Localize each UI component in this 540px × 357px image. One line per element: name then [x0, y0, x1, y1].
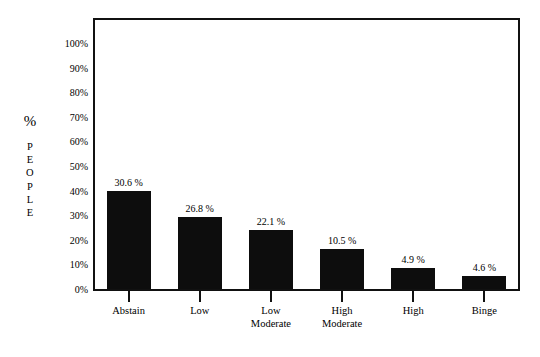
bar-group[interactable]: 10.5 % [320, 18, 364, 289]
y-axis-tick-label: 10% [70, 259, 88, 270]
x-axis-tick [199, 291, 201, 302]
x-axis-tick [128, 291, 130, 302]
y-axis-tick-label: 30% [70, 210, 88, 221]
x-axis-tick [412, 291, 414, 302]
y-axis-tick-label: 70% [70, 111, 88, 122]
y-axis-letter-6: E [8, 206, 52, 219]
x-axis-tick [483, 291, 485, 302]
y-axis-tick-label: 80% [70, 87, 88, 98]
bar-value-label: 4.6 % [473, 262, 496, 273]
bar[interactable] [249, 230, 293, 289]
x-axis-category-label: Binge [472, 305, 497, 318]
y-axis-tick-label: 90% [70, 62, 88, 73]
bar-value-label: 4.9 % [402, 254, 425, 265]
y-axis-tick-labels: 0%10%20%30%40%50%60%70%80%90%100% [52, 18, 90, 291]
bar[interactable] [107, 191, 151, 289]
y-axis-letter-1: P [8, 140, 52, 153]
bar-chart-figure: % P E O P L E 0%10%20%30%40%50%60%70%80%… [0, 0, 540, 357]
y-axis-stacked-word: P E O P L E [8, 140, 52, 219]
y-axis-letter-3: O [8, 166, 52, 179]
bar-value-label: 10.5 % [328, 235, 356, 246]
y-axis-tick-label: 100% [65, 38, 88, 49]
bar-group[interactable]: 26.8 % [178, 18, 222, 289]
x-axis-category-label: High [403, 305, 424, 318]
bar-group[interactable]: 4.9 % [391, 18, 435, 289]
x-axis-category-label: Low [190, 305, 209, 318]
bar-value-label: 22.1 % [257, 216, 285, 227]
bar-group[interactable]: 30.6 % [107, 18, 151, 289]
bars-layer: 30.6 %26.8 %22.1 %10.5 %4.9 %4.6 % [93, 18, 520, 291]
x-axis-category-label: LowModerate [251, 305, 291, 330]
x-axis-category-label: HighModerate [322, 305, 362, 330]
x-axis-category-labels: AbstainLowLowModerateHighModerateHighBin… [93, 305, 520, 345]
bar-value-label: 30.6 % [114, 177, 142, 188]
y-axis-tick-label: 60% [70, 136, 88, 147]
bar[interactable] [320, 249, 364, 289]
bar-group[interactable]: 22.1 % [249, 18, 293, 289]
x-axis-tick [270, 291, 272, 302]
bar[interactable] [462, 276, 506, 289]
y-axis-letter-5: L [8, 193, 52, 206]
bar-value-label: 26.8 % [186, 203, 214, 214]
x-axis-category-label: Abstain [112, 305, 145, 318]
x-axis-tick [341, 291, 343, 302]
y-axis-letter-2: E [8, 153, 52, 166]
y-axis-title: % P E O P L E [8, 114, 52, 219]
y-axis-tick-label: 20% [70, 234, 88, 245]
y-axis-tick-label: 40% [70, 185, 88, 196]
y-axis-tick-label: 0% [75, 284, 88, 295]
bar[interactable] [178, 217, 222, 289]
bar-group[interactable]: 4.6 % [462, 18, 506, 289]
y-axis-letter-4: P [8, 180, 52, 193]
percent-symbol: % [8, 114, 52, 129]
y-axis-tick-label: 50% [70, 161, 88, 172]
bar[interactable] [391, 268, 435, 289]
